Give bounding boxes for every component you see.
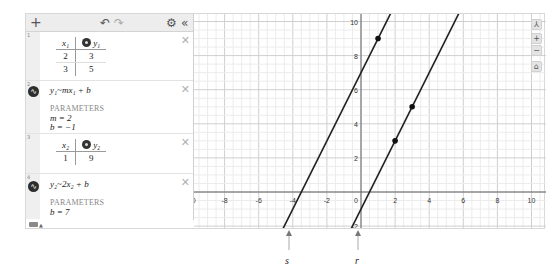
slider-s[interactable] <box>286 230 292 250</box>
slider-label-s: s <box>285 255 289 266</box>
slider-label-r: r <box>355 255 359 266</box>
slider-r[interactable] <box>355 230 361 250</box>
slider-arrows <box>0 0 560 277</box>
